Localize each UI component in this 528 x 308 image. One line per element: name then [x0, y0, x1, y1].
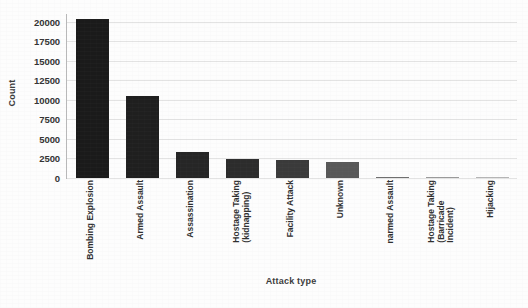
- x-axis-tick-label-line: narmed Assault: [385, 180, 395, 243]
- x-axis-tick-label: Assassination: [186, 180, 196, 238]
- y-axis-tick-label: 15000: [34, 55, 60, 66]
- y-axis-title-text: Count: [6, 80, 16, 107]
- bar: [376, 177, 409, 178]
- x-axis-tick-label: Facility Attack: [286, 180, 296, 237]
- y-axis-tick-label: 7500: [39, 114, 60, 125]
- x-axis-tick-label: Hijacking: [486, 180, 496, 218]
- bar: [426, 177, 459, 178]
- bar: [226, 159, 259, 178]
- bar-slot: [417, 14, 467, 178]
- x-axis-tick-labels: Bombing ExplosionArmed AssaultAssassinat…: [66, 180, 516, 276]
- bar: [476, 177, 509, 178]
- x-axis-tick-slot: Armed Assault: [116, 180, 166, 276]
- x-axis-tick-label-line: (kidnapping): [241, 180, 251, 243]
- x-axis-tick-label-line: Hostage Taking: [231, 180, 241, 243]
- y-axis-tick-label: 2500: [39, 153, 60, 164]
- x-axis-tick-slot: Hostage Taking(kidnapping): [216, 180, 266, 276]
- x-axis-tick-slot: Bombing Explosion: [66, 180, 116, 276]
- x-axis-tick-label-line: Facility Attack: [285, 180, 295, 237]
- y-axis-tick-label: 20000: [34, 16, 60, 27]
- bar-chart-figure: Count 0250050007500100001250015000175002…: [0, 0, 528, 308]
- x-axis-tick-slot: narmed Assault: [366, 180, 416, 276]
- x-axis-tick-slot: Hijacking: [466, 180, 516, 276]
- bar: [126, 96, 159, 178]
- y-axis-tick-label: 12500: [34, 75, 60, 86]
- x-axis-tick-slot: Facility Attack: [266, 180, 316, 276]
- bar: [76, 19, 109, 178]
- x-axis-tick-label-line: Armed Assault: [135, 180, 145, 240]
- y-axis-tick-label: 5000: [39, 133, 60, 144]
- x-axis-tick-label-line: Assassination: [185, 180, 195, 238]
- y-axis-tick-label: 17500: [34, 36, 60, 47]
- bar: [326, 162, 359, 178]
- x-axis-tick-label-line: Bombing Explosion: [85, 180, 95, 260]
- x-axis-tick-label-line: Hijacking: [485, 180, 495, 218]
- bar-series: [67, 14, 517, 178]
- x-axis-title: Attack type: [66, 276, 516, 286]
- y-axis-tick-labels: 02500500075001000012500150001750020000: [18, 14, 64, 186]
- x-axis-tick-label: Hostage Taking(kidnapping): [232, 180, 251, 243]
- x-axis-tick-slot: Assassination: [166, 180, 216, 276]
- x-axis-tick-label-line: Unknown: [335, 180, 345, 218]
- x-axis-tick-label-line: Hostage Taking: [426, 180, 436, 243]
- x-axis-tick-label-line: Incident): [446, 180, 456, 243]
- x-axis-tick-label: narmed Assault: [386, 180, 396, 243]
- x-axis-tick-slot: Hostage Taking(BarricadeIncident): [416, 180, 466, 276]
- bar: [176, 152, 209, 178]
- x-axis-tick-label: Hostage Taking(BarricadeIncident): [427, 180, 456, 243]
- plot-area: [66, 14, 517, 179]
- bar-slot: [67, 14, 117, 178]
- x-axis-tick-label: Unknown: [336, 180, 346, 218]
- bar-slot: [217, 14, 267, 178]
- bar-slot: [467, 14, 517, 178]
- x-axis-tick-label: Armed Assault: [136, 180, 146, 240]
- x-axis-tick-slot: Unknown: [316, 180, 366, 276]
- bar: [276, 160, 309, 178]
- bar-slot: [267, 14, 317, 178]
- y-axis-tick-label: 0: [55, 173, 60, 184]
- bar-slot: [117, 14, 167, 178]
- x-axis-tick-label: Bombing Explosion: [86, 180, 96, 260]
- bar-slot: [167, 14, 217, 178]
- y-axis-tick-label: 10000: [34, 94, 60, 105]
- bar-slot: [367, 14, 417, 178]
- bar-slot: [317, 14, 367, 178]
